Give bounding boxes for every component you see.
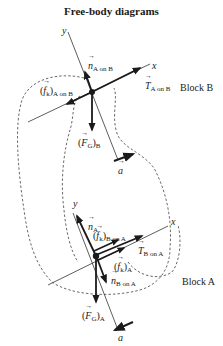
block-a-normal-b-on-a-label: nB on A — [111, 276, 136, 288]
free-body-diagram-canvas — [0, 0, 223, 346]
block-b-gravity-label: (FG)B — [78, 138, 101, 150]
block-a-x-axis-label: x — [171, 216, 175, 227]
block-b-particle — [89, 89, 95, 95]
block-a-friction-b-on-a-label: (fk)B on A — [93, 231, 126, 243]
block-a-label: Block A — [182, 276, 215, 287]
dashed-inner-curve — [62, 96, 80, 262]
block-b-y-axis-label: y — [62, 25, 66, 36]
block-b-tension-label: TA on B — [145, 81, 170, 93]
block-b-friction-label: (fk)A on B — [40, 86, 73, 98]
block-a-gravity-label: (FG)A — [82, 311, 105, 323]
block-b-normal-arrow — [85, 72, 92, 92]
dashed-outline — [18, 76, 171, 295]
block-a-acceleration-label: a — [118, 333, 123, 343]
block-b-normal-label: nA on B — [88, 61, 113, 73]
block-a-tension-label: TB on A — [138, 246, 163, 258]
block-a-particle — [93, 253, 99, 259]
block-b-x-axis-label: x — [152, 60, 156, 71]
block-a-y-axis-label: y — [73, 198, 77, 209]
block-b-label: Block B — [180, 82, 213, 93]
block-b-acceleration-label: a — [118, 166, 123, 176]
